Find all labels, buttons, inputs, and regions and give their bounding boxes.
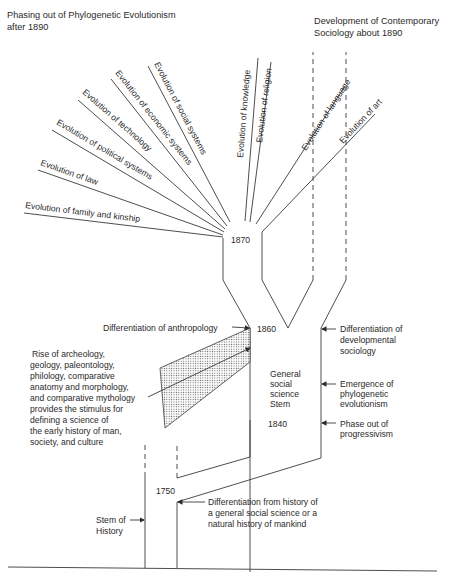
diff-history-line-3: natural history of mankind xyxy=(208,519,307,529)
phylogenetic-evolutionism-diagram: Phasing out of Phylogenetic Evolutionism… xyxy=(0,0,453,578)
developmental-line-3: sociology xyxy=(340,346,377,356)
baseline xyxy=(8,567,437,571)
right-header-line2: Sociology about 1890 xyxy=(314,28,402,38)
phase-out-line-1: Phase out of xyxy=(340,419,389,429)
anthropology-arrow xyxy=(232,327,249,328)
middle-v-line xyxy=(262,232,313,328)
rise-line-1: Rise of archeology, xyxy=(32,349,105,359)
diff-history-line-1: Differentiation from history of xyxy=(208,497,318,507)
general-stem-line-4: Stem xyxy=(270,399,290,409)
right-header-line1: Development of Contemporary xyxy=(314,16,440,26)
stem-history-line-1: Stem of xyxy=(96,515,126,525)
rise-line-3: philology, comparative xyxy=(30,371,115,381)
developmental-sociology-label: Differentiation of developmental sociolo… xyxy=(340,324,403,356)
phase-out-label: Phase out of progressivism xyxy=(340,419,393,439)
emergence-line-1: Emergence of xyxy=(340,379,394,389)
rise-line-2: geology, paleontology, xyxy=(30,360,115,370)
left-header-line2: after 1890 xyxy=(7,22,48,32)
left-header-line1: Phasing out of Phylogenetic Evolutionism xyxy=(7,10,176,20)
developmental-line-2: developmental xyxy=(340,335,396,345)
general-social-science-stem-label: General social science Stem xyxy=(270,369,301,409)
branch-label-art: Evolution of art xyxy=(337,96,384,145)
developmental-line-1: Differentiation of xyxy=(340,324,403,334)
branch-labels: Evolution of family and kinship Evolutio… xyxy=(25,60,384,224)
general-stem-line-1: General xyxy=(270,369,301,379)
rise-line-4: anatomy and morphology, xyxy=(30,382,129,392)
branch-label-religion: Evolution of religion xyxy=(254,67,274,143)
diff-history-line-2: a general social science or a xyxy=(208,508,317,518)
phase-out-line-2: progressivism xyxy=(340,429,393,439)
emergence-line-3: evolutionism xyxy=(340,399,388,409)
differentiation-anthropology-label: Differentiation of anthropology xyxy=(103,323,218,333)
stimulus-shaded-band xyxy=(160,328,250,428)
year-1840: 1840 xyxy=(268,419,287,429)
rise-line-5: and comparative mythology xyxy=(30,393,136,403)
emergence-line-2: phylogenetic xyxy=(340,389,389,399)
year-1750: 1750 xyxy=(156,486,175,496)
stem-history-line-2: History xyxy=(96,526,123,536)
rise-line-8: the early history of man, xyxy=(30,426,122,436)
branch-line-social xyxy=(148,66,230,222)
stem-of-history-label: Stem of History xyxy=(96,515,126,536)
rise-line-7: defining a science of xyxy=(30,415,109,425)
general-social-science-left-line xyxy=(177,420,250,478)
rise-of-archeology-label: Rise of archeology, geology, paleontolog… xyxy=(30,349,136,447)
emergence-label: Emergence of phylogenetic evolutionism xyxy=(340,379,394,409)
rise-line-9: society, and culture xyxy=(30,437,104,447)
rise-line-6: provides the stimulus for xyxy=(30,404,123,414)
branch-label-knowledge: Evolution of knowledge xyxy=(235,69,252,158)
branch-label-law: Evolution of law xyxy=(39,157,100,187)
branch-line-economic xyxy=(111,79,227,226)
year-1860: 1860 xyxy=(257,324,276,334)
differentiation-from-history-label: Differentiation from history of a genera… xyxy=(208,497,318,529)
general-stem-line-3: science xyxy=(270,389,299,399)
general-stem-line-2: social xyxy=(270,379,292,389)
year-1870: 1870 xyxy=(231,235,250,245)
